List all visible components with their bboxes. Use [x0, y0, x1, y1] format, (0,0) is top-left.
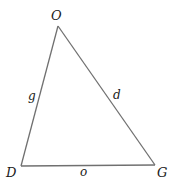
side-label-o: o: [80, 166, 87, 179]
side-og: [58, 26, 155, 165]
side-label-g: g: [28, 90, 36, 103]
side-dg: [21, 165, 155, 166]
triangle-figure: [0, 0, 172, 186]
vertex-label-d: D: [6, 166, 16, 179]
vertex-label-g: G: [157, 166, 167, 179]
vertex-label-o: O: [51, 9, 62, 22]
triangle-diagram: O D G g d o: [0, 0, 172, 186]
side-od: [21, 26, 58, 166]
side-label-d: d: [113, 89, 121, 102]
